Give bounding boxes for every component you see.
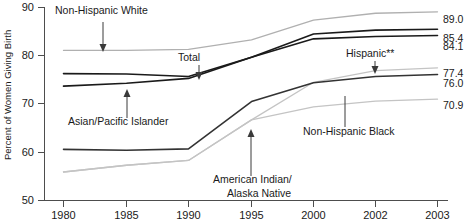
line-chart: Percent of Women Giving Birth 90 80 70 6… [0, 0, 465, 223]
end-value-84: 84.1 [443, 40, 464, 52]
x-axis-ticks [64, 201, 438, 208]
annotation-total: Total [178, 51, 200, 63]
x-tick-label-1995: 1995 [239, 209, 263, 221]
y-tick-label-50: 50 [22, 194, 34, 206]
x-tick-label-2000: 2000 [301, 209, 325, 221]
arrowhead-asian-pacific-islander [124, 89, 131, 97]
end-value-70: 70.9 [443, 99, 464, 111]
y-axis-tick-labels: 90 80 70 60 50 [22, 1, 34, 206]
arrowhead-american-indian [248, 129, 255, 137]
end-value-76: 76.0 [443, 77, 464, 89]
series-line-non-hispanic-white [64, 12, 438, 51]
x-tick-label-1985: 1985 [114, 209, 138, 221]
y-tick-label-60: 60 [22, 146, 34, 158]
end-value-labels: 89.0 85.4 84.1 77.4 76.0 70.9 [443, 13, 464, 111]
annotation-american-indian-line2: Alaska Native [227, 187, 291, 199]
x-tick-label-1990: 1990 [176, 209, 200, 221]
x-axis-tick-labels: 1980 1985 1990 1995 2000 2002 2003 [51, 209, 449, 221]
y-axis-ticks [38, 8, 45, 201]
annotation-asian-pacific-islander: Asian/Pacific Islander [68, 115, 169, 127]
x-tick-label-2003: 2003 [425, 209, 449, 221]
end-value-89: 89.0 [443, 13, 464, 25]
x-tick-label-1980: 1980 [51, 209, 75, 221]
annotation-american-indian-line1: American Indian/ [213, 173, 292, 185]
y-tick-label-80: 80 [22, 49, 34, 61]
x-tick-label-2002: 2002 [363, 209, 387, 221]
y-axis-title: Percent of Women Giving Birth [2, 30, 13, 160]
chart-container: Percent of Women Giving Birth 90 80 70 6… [0, 0, 465, 223]
annotation-non-hispanic-white: Non-Hispanic White [55, 4, 148, 16]
y-tick-label-90: 90 [22, 1, 34, 13]
annotation-non-hispanic-black: Non-Hispanic Black [303, 125, 395, 137]
annotation-labels: Non-Hispanic White Total Hispanic** Asia… [55, 4, 395, 199]
series-line-total [64, 35, 438, 86]
annotation-hispanic: Hispanic** [346, 47, 394, 59]
y-tick-label-70: 70 [22, 97, 34, 109]
annotation-leaders [100, 22, 379, 176]
